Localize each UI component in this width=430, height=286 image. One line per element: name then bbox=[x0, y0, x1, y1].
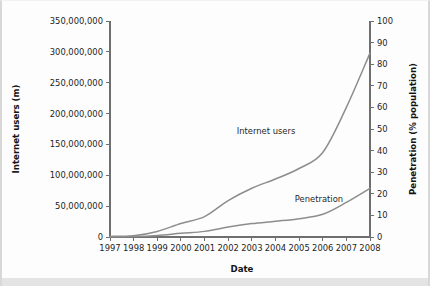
y2-tick-label: 50 bbox=[377, 124, 388, 134]
y-tick-label: 350,000,000 bbox=[50, 16, 103, 26]
y-tick-label: 150,000,000 bbox=[50, 139, 103, 149]
bottom-axis: 1997199819992000200120022003200420052006… bbox=[99, 237, 380, 253]
x-tick-label: 2007 bbox=[336, 243, 357, 253]
x-tick-label: 2002 bbox=[218, 243, 239, 253]
x-tick-label: 1998 bbox=[123, 243, 144, 253]
x-tick-label: 2005 bbox=[288, 243, 309, 253]
x-tick-label: 2004 bbox=[265, 243, 286, 253]
y2-tick-label: 70 bbox=[377, 81, 388, 91]
right-axis: 0102030405060708090100 bbox=[370, 16, 393, 242]
x-tick-label: 1997 bbox=[99, 243, 120, 253]
y2-tick-label: 100 bbox=[377, 16, 393, 26]
x-tick-label: 2003 bbox=[241, 243, 262, 253]
chart-figure: 050,000,000100,000,000150,000,000200,000… bbox=[0, 0, 430, 286]
left-axis: 050,000,000100,000,000150,000,000200,000… bbox=[50, 16, 110, 242]
y2-tick-label: 80 bbox=[377, 59, 388, 69]
y2-tick-label: 60 bbox=[377, 102, 388, 112]
x-axis-title: Date bbox=[231, 264, 254, 274]
x-tick-label: 1999 bbox=[147, 243, 168, 253]
y-tick-label: 200,000,000 bbox=[50, 109, 103, 119]
y-tick-label: 100,000,000 bbox=[50, 170, 103, 180]
y2-tick-label: 90 bbox=[377, 38, 388, 48]
series-annotations: Internet usersPenetration bbox=[237, 126, 343, 204]
penetration-annotation: Penetration bbox=[295, 194, 343, 204]
y2-tick-label: 10 bbox=[377, 210, 388, 220]
y-axis-title: Internet users (m) bbox=[11, 85, 21, 174]
y-tick-label: 250,000,000 bbox=[50, 78, 103, 88]
y-tick-label: 0 bbox=[98, 232, 103, 242]
x-tick-label: 2006 bbox=[312, 243, 333, 253]
y2-tick-label: 20 bbox=[377, 189, 388, 199]
figure-footer-strip bbox=[2, 278, 428, 286]
y2-tick-label: 30 bbox=[377, 167, 388, 177]
y2-axis-title: Penetration (% population) bbox=[408, 63, 418, 195]
line-chart-canvas: 050,000,000100,000,000150,000,000200,000… bbox=[2, 1, 430, 286]
series-line-internet-users bbox=[110, 53, 370, 236]
x-tick-label: 2001 bbox=[194, 243, 215, 253]
y-tick-label: 50,000,000 bbox=[55, 201, 103, 211]
y2-tick-label: 40 bbox=[377, 146, 388, 156]
x-tick-label: 2000 bbox=[170, 243, 191, 253]
y2-tick-label: 0 bbox=[377, 232, 382, 242]
series-lines bbox=[110, 53, 370, 237]
internet-users-annotation: Internet users bbox=[237, 126, 296, 136]
x-tick-label: 2008 bbox=[359, 243, 380, 253]
y-tick-label: 300,000,000 bbox=[50, 47, 103, 57]
